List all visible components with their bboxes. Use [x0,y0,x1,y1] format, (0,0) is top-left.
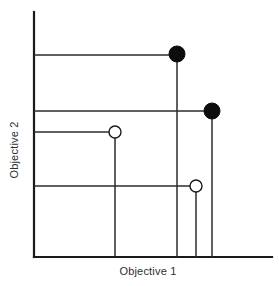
axes-group [34,12,272,257]
plot-canvas: Objective 1 Objective 2 [0,0,279,286]
vertical-drop-lines [115,55,212,257]
data-point-open-p4 [190,180,202,192]
x-axis-label: Objective 1 [119,265,176,277]
data-markers-group [109,46,220,192]
data-point-filled-p2 [204,103,220,119]
data-point-filled-p1 [169,46,185,62]
objective-scatter-plot: Objective 1 Objective 2 [0,0,279,286]
data-point-open-p3 [109,126,121,138]
horizontal-leader-lines [34,55,212,186]
y-axis-label: Objective 2 [8,121,20,178]
